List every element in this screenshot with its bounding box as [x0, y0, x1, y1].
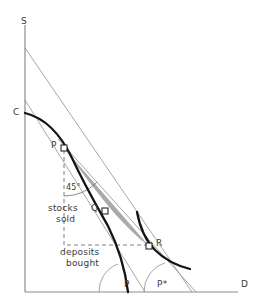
budget-line-p-star — [25, 48, 192, 292]
angle-label-45: 45° — [66, 183, 81, 192]
marker-point-q — [102, 208, 108, 214]
price-ratio-label-p-star: P* — [157, 279, 167, 289]
curve-label-c: C — [13, 107, 19, 117]
y-axis-label: S — [21, 16, 27, 26]
annotation-bought: bought — [66, 258, 99, 268]
angle-arc-p — [99, 264, 118, 292]
economics-diagram: S D C P Q R 45° stocks sold deposits bou… — [0, 0, 268, 304]
point-label-p: P — [51, 140, 57, 150]
price-ratio-label-p: P — [124, 279, 130, 289]
point-label-r: R — [156, 238, 162, 248]
marker-point-p — [61, 145, 67, 151]
diagram-canvas — [0, 0, 268, 304]
annotation-sold: sold — [56, 214, 75, 224]
shaded-wedge-stocks-deposits — [64, 148, 149, 246]
indifference-curve-second — [137, 212, 190, 269]
x-axis-label: D — [241, 279, 248, 289]
annotation-deposits: deposits — [60, 247, 99, 257]
marker-point-r — [146, 243, 152, 249]
secant-line-p-r — [58, 139, 196, 292]
point-label-q: Q — [91, 203, 98, 213]
annotation-stocks: stocks — [48, 203, 78, 213]
